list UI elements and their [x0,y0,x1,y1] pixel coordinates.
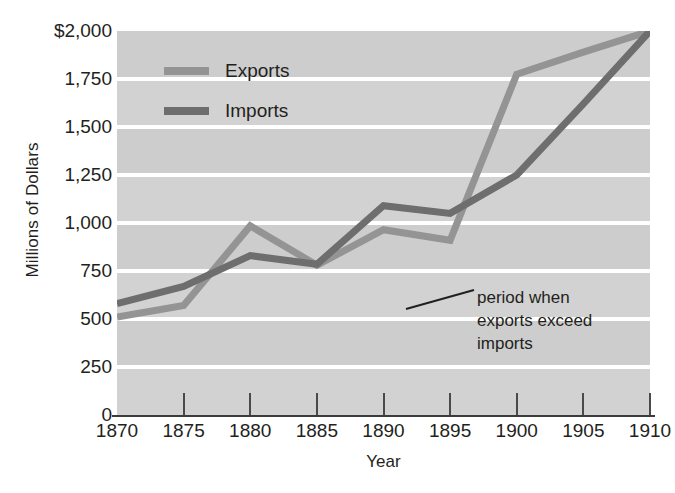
annotation-line-2: exports exceed [477,309,662,332]
y-tick-label: 1,000 [4,213,112,232]
y-tick-label: $2,000 [4,21,112,40]
x-tick-label: 1910 [610,419,675,443]
annotation-line-3: imports [477,332,662,355]
chart-legend: Exports Imports [164,51,364,131]
y-tick-label: 250 [4,357,112,376]
x-axis-title: Year [117,452,650,472]
x-axis-tick-labels: 187018751880188518901895190019051910 [0,419,667,447]
x-tick-mark [649,393,651,415]
legend-label-exports: Exports [225,60,289,82]
y-tick-label: 1,250 [4,165,112,184]
x-tick-mark [449,393,451,415]
legend-swatch-exports [164,67,209,75]
y-tick-label: 500 [4,309,112,328]
annotation-leader-line [400,283,480,315]
annotation-line-1: period when [477,286,662,309]
legend-item-exports: Exports [164,51,364,91]
y-tick-label: 750 [4,261,112,280]
y-tick-label: 1,750 [4,69,112,88]
x-axis-ticks [117,393,650,415]
x-tick-mark [516,393,518,415]
annotation-exports-exceed-imports: period when exports exceed imports [477,286,662,355]
y-tick-label: 1,500 [4,117,112,136]
legend-item-imports: Imports [164,91,364,131]
x-tick-mark [249,393,251,415]
x-tick-mark [316,393,318,415]
x-axis-line [112,415,655,417]
x-tick-mark [383,393,385,415]
legend-label-imports: Imports [225,100,288,122]
x-tick-mark [582,393,584,415]
legend-swatch-imports [164,107,209,115]
x-tick-mark [183,393,185,415]
